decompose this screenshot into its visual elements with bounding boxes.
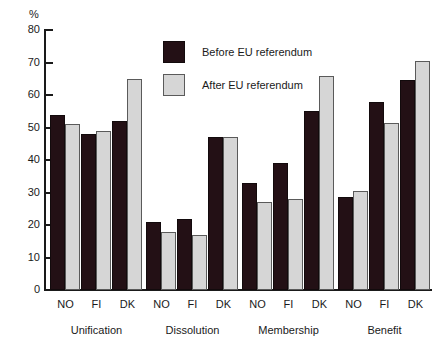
bar-before-dissolution-dk — [208, 137, 223, 290]
x-axis-category-label: NO — [337, 298, 371, 310]
bar-before-benefit-dk — [400, 80, 415, 290]
x-axis-category-label: NO — [241, 298, 275, 310]
bar-after-unification-dk — [127, 79, 142, 290]
legend-swatch-after — [163, 74, 185, 96]
bar-before-membership-dk — [304, 111, 319, 290]
bar-chart: % 80706050403020100 NOFIDKUnificationNOF… — [0, 0, 446, 352]
legend-label: Before EU referendum — [202, 46, 312, 58]
bar-after-benefit-fi — [384, 123, 399, 290]
y-axis-unit-label: % — [29, 8, 39, 20]
bar-after-benefit-no — [353, 191, 368, 290]
x-axis-category-label: NO — [49, 298, 83, 310]
bar-before-dissolution-fi — [177, 219, 192, 291]
bar-before-unification-dk — [112, 121, 127, 290]
y-axis-tick-label: 50 — [16, 122, 40, 133]
y-axis-tick-label: 20 — [16, 219, 40, 230]
bar-before-membership-no — [242, 183, 257, 290]
x-axis-category-label: FI — [176, 298, 210, 310]
bar-before-unification-fi — [81, 134, 96, 290]
x-axis-category-label: NO — [145, 298, 179, 310]
bar-before-benefit-no — [338, 197, 353, 290]
bar-before-unification-no — [50, 115, 65, 291]
bar-after-unification-fi — [96, 131, 111, 290]
x-axis-group-label: Benefit — [325, 324, 445, 336]
bar-before-dissolution-no — [146, 222, 161, 290]
bar-after-unification-no — [65, 124, 80, 290]
bar-after-dissolution-no — [161, 232, 176, 291]
y-axis-tick-label: 0 — [16, 284, 40, 295]
bar-after-membership-no — [257, 202, 272, 290]
bar-after-membership-dk — [319, 76, 334, 291]
x-axis-category-label: DK — [207, 298, 241, 310]
legend-label: After EU referendum — [202, 79, 303, 91]
x-axis-category-label: DK — [303, 298, 337, 310]
y-axis-tick-label: 60 — [16, 89, 40, 100]
legend-item: After EU referendum — [163, 72, 312, 98]
bar-before-benefit-fi — [369, 102, 384, 291]
x-axis-category-label: DK — [399, 298, 433, 310]
bar-after-benefit-dk — [415, 61, 430, 290]
bar-after-membership-fi — [288, 199, 303, 290]
bar-after-dissolution-dk — [223, 137, 238, 290]
y-axis-tick-label: 80 — [16, 24, 40, 35]
x-axis-category-label: FI — [272, 298, 306, 310]
legend-swatch-before — [163, 41, 185, 63]
x-axis-category-label: FI — [368, 298, 402, 310]
y-axis-tick-label: 70 — [16, 57, 40, 68]
y-axis-tick-label: 10 — [16, 252, 40, 263]
x-axis-category-label: DK — [111, 298, 145, 310]
y-axis-tick-label: 40 — [16, 154, 40, 165]
legend-item: Before EU referendum — [163, 39, 312, 65]
chart-legend: Before EU referendumAfter EU referendum — [163, 39, 312, 105]
bar-after-dissolution-fi — [192, 235, 207, 290]
x-axis-category-label: FI — [80, 298, 114, 310]
y-axis-tick-label: 30 — [16, 187, 40, 198]
bar-before-membership-fi — [273, 163, 288, 290]
